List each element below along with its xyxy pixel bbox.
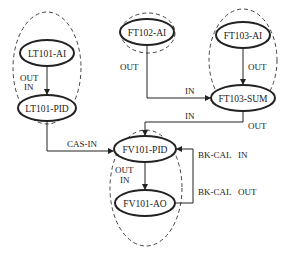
node-lt101-pid[interactable]: LT101-PID [18,95,76,121]
node-ft103-sum[interactable]: FT103-SUM [211,85,275,111]
edge-bkcal [175,149,193,203]
label-ft103-out: OUT [248,62,267,72]
node-ft102-ai[interactable]: FT102-AI [120,19,174,45]
label-cas-in: CAS-IN [67,139,98,149]
label-ft102-in: IN [185,86,195,96]
node-label: FV101-AO [123,199,166,209]
label-sum-in: IN [185,111,195,121]
node-fv101-pid[interactable]: FV101-PID [114,136,176,162]
control-loop-diagram: LT101-AI LT101-PID FT102-AI FT103-AI FT1… [0,0,286,254]
label-bkcal-in: BK-CAL IN [198,150,248,160]
edge-ft102-to-sum [147,45,210,98]
node-label: FT103-SUM [218,94,268,104]
label-sum-out: OUT [248,121,267,131]
label-fv-in: IN [120,175,130,185]
label-ft102-out: OUT [120,62,139,72]
node-label: LT101-AI [28,49,66,59]
node-ft103-ai[interactable]: FT103-AI [216,22,270,48]
node-label: FT103-AI [224,31,263,41]
label-fv-out: OUT [115,165,134,175]
node-label: LT101-PID [25,104,69,114]
label-bkcal-out: BK-CAL OUT [198,187,257,197]
label-lt-in: IN [24,82,34,92]
node-label: FT102-AI [128,28,167,38]
node-label: FV101-PID [123,145,168,155]
node-lt101-ai[interactable]: LT101-AI [20,40,74,66]
node-fv101-ao[interactable]: FV101-AO [115,190,175,216]
